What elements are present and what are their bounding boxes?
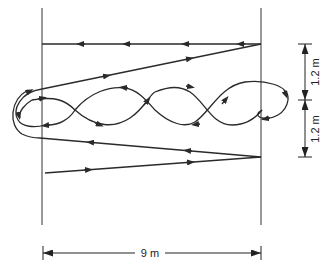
lower-height-label: 1.2 m	[309, 115, 321, 143]
movement-diagram: 1.2 m 1.2 m 9 m	[0, 0, 327, 270]
left-connector-curve	[13, 90, 40, 138]
upper-height-label: 1.2 m	[309, 58, 321, 86]
bottom-start-diagonal	[45, 157, 261, 173]
lower-return-diagonal	[40, 138, 261, 157]
upper-diagonal	[42, 44, 261, 89]
width-label: 9 m	[141, 247, 159, 259]
figure-eight-weave	[16, 82, 288, 127]
